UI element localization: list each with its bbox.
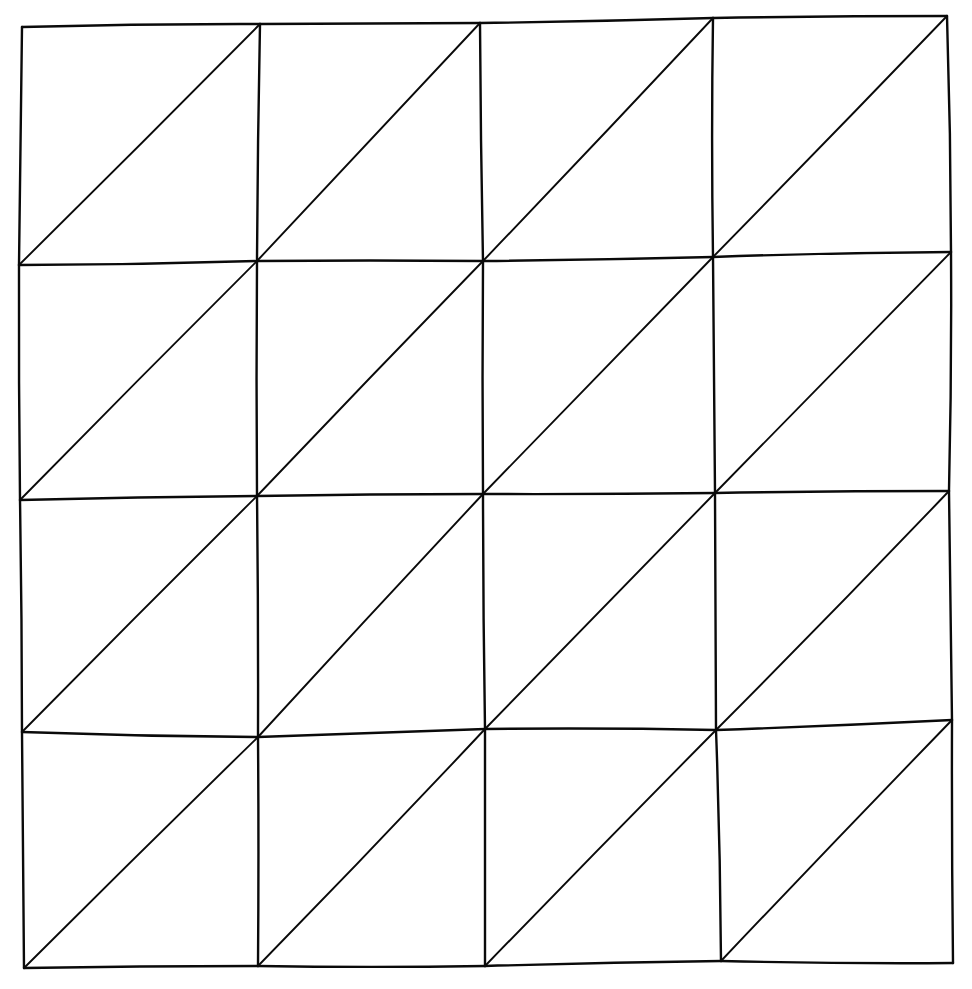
horizontal-grid-line [257, 494, 483, 496]
diagonal-line [721, 720, 952, 961]
vertical-grid-line [19, 27, 22, 265]
horizontal-grid-line [480, 18, 713, 23]
triangulated-grid-drawing [0, 0, 972, 989]
diagonal-line [485, 730, 716, 966]
vertical-grid-line [20, 500, 22, 732]
diagonal-line [716, 491, 949, 730]
diagonal-line [713, 16, 947, 257]
horizontal-grid-line [713, 252, 951, 257]
diagonal-line [258, 729, 485, 966]
vertical-grid-line [480, 23, 483, 261]
diagonal-line [19, 24, 260, 265]
horizontal-grid-line [258, 966, 485, 967]
vertical-grid-line [712, 18, 713, 257]
diagonal-line [257, 261, 483, 496]
horizontal-grid-line [260, 23, 480, 24]
horizontal-grid-line [485, 961, 721, 966]
diagonal-line [483, 257, 713, 494]
vertical-grid-line [949, 491, 952, 720]
horizontal-grid-line [19, 261, 257, 265]
diagonal-line [715, 252, 951, 493]
horizontal-grid-line [713, 16, 947, 18]
vertical-grid-line [22, 732, 24, 968]
vertical-grid-line [713, 257, 715, 493]
horizontal-grid-line [22, 24, 260, 27]
diagonal-line [22, 496, 257, 732]
diagonal-line [483, 18, 713, 261]
vertical-grid-line [257, 24, 260, 261]
horizontal-grid-line [20, 496, 257, 500]
diagonal-line [258, 494, 483, 737]
diagonal-line [257, 23, 480, 261]
horizontal-grid-line [483, 257, 713, 261]
horizontal-grid-line [483, 493, 715, 494]
vertical-grid-line [257, 496, 258, 737]
vertical-grid-line [952, 720, 953, 963]
vertical-grid-line [483, 494, 485, 729]
vertical-grid-line [19, 265, 20, 500]
vertical-grid-line [947, 16, 951, 252]
vertical-grid-line [715, 493, 716, 730]
diagonal-line [485, 493, 715, 729]
horizontal-grid-line [715, 491, 949, 493]
diagonal-line [24, 737, 258, 968]
horizontal-grid-line [485, 729, 716, 730]
horizontal-grid-line [721, 961, 953, 963]
vertical-grid-line [716, 730, 721, 961]
horizontal-grid-line [258, 729, 485, 737]
horizontal-grid-line [24, 966, 258, 968]
vertical-grid-line [949, 252, 951, 491]
horizontal-grid-line [716, 720, 952, 730]
horizontal-grid-line [22, 732, 258, 737]
diagonal-line [20, 261, 257, 500]
